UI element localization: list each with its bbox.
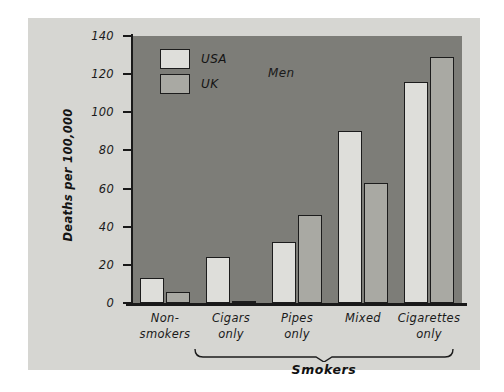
y-axis-tick-label: 20 <box>54 258 114 272</box>
chart-figure: USA UK Men 020406080100120140 Deaths per… <box>28 18 480 370</box>
legend-label-uk: UK <box>201 77 218 91</box>
y-axis-tick-label: 140 <box>54 29 114 43</box>
bar-usa-2 <box>272 242 296 303</box>
bar-uk-0 <box>166 292 190 303</box>
bar-uk-3 <box>364 183 388 303</box>
smokers-group-bracket <box>194 348 454 362</box>
legend-swatch-uk <box>160 74 190 94</box>
legend-entry-usa: USA <box>160 48 227 70</box>
legend-entry-uk: UK <box>160 73 227 95</box>
y-axis-tick <box>123 149 132 151</box>
bar-usa-0 <box>140 278 164 303</box>
x-axis-line <box>126 303 467 306</box>
plot-area: USA UK Men <box>132 36 462 303</box>
legend-swatch-usa <box>160 49 190 69</box>
bar-usa-3 <box>338 131 362 303</box>
y-axis-tick <box>123 264 132 266</box>
bar-usa-4 <box>404 82 428 303</box>
bar-uk-2 <box>298 215 322 303</box>
bar-uk-4 <box>430 57 454 303</box>
y-axis-title: Deaths per 100,000 <box>61 100 75 250</box>
x-axis-category-label: Cigarettes only <box>379 310 479 342</box>
smokers-group-label: Smokers <box>194 362 454 377</box>
y-axis-tick <box>123 226 132 228</box>
legend-label-usa: USA <box>201 52 227 66</box>
y-axis-tick <box>123 188 132 190</box>
y-axis-tick <box>123 302 132 304</box>
y-axis-tick <box>123 111 132 113</box>
y-axis-tick <box>123 35 132 37</box>
bar-usa-1 <box>206 257 230 303</box>
chart-legend: USA UK <box>160 48 227 98</box>
y-axis-tick-label: 120 <box>54 67 114 81</box>
y-axis-tick-label: 0 <box>54 296 114 310</box>
y-axis-tick <box>123 73 132 75</box>
chart-annotation-men: Men <box>268 66 295 80</box>
